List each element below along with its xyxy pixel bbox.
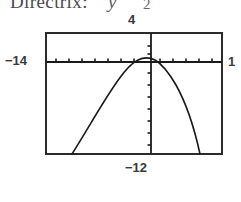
plot-canvas bbox=[45, 32, 223, 155]
parabola-graph-figure: Directrix: y 2 bbox=[0, 0, 241, 202]
directrix-label: Directrix: bbox=[10, 0, 88, 13]
x-axis bbox=[46, 59, 222, 63]
directrix-denominator: 2 bbox=[143, 0, 151, 13]
y-axis bbox=[148, 33, 152, 153]
directrix-variable: y bbox=[108, 0, 116, 13]
axis-label-bottom: −12 bbox=[125, 160, 147, 175]
axis-label-top: 4 bbox=[128, 12, 135, 27]
figure-header: Directrix: y 2 bbox=[0, 0, 241, 13]
axis-label-left: −14 bbox=[5, 53, 27, 68]
parabola-curve bbox=[72, 58, 200, 154]
axis-label-right: 1 bbox=[228, 54, 241, 69]
